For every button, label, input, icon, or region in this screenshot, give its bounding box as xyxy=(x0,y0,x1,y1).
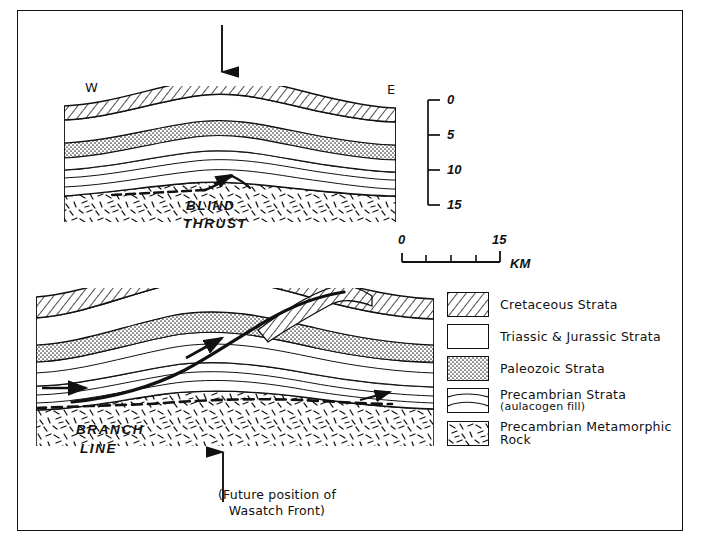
legend-swatch-precambrian-strata xyxy=(447,388,489,413)
legend-swatch-precambrian-metamorphic xyxy=(447,421,489,446)
legend-label-precambrian-metamorphic: Precambrian Metamorphic Rock xyxy=(500,420,701,446)
east-label: E xyxy=(387,82,395,97)
depth-tick-0: 0 xyxy=(447,92,454,107)
legend-label-paleozoic: Paleozoic Strata xyxy=(500,362,605,375)
scale-end-label: 15 xyxy=(492,232,506,247)
legend-label-triassic-jurassic: Triassic & Jurassic Strata xyxy=(500,330,661,343)
legend-swatch-paleozoic xyxy=(447,356,489,381)
depth-tick-5: 5 xyxy=(447,127,454,142)
caption-line-1: (Future position of xyxy=(172,487,382,503)
scale-unit-label: KM xyxy=(510,256,530,271)
branch-line-label-line2: LINE xyxy=(80,441,117,456)
legend-item-paleozoic: Paleozoic Strata xyxy=(447,356,701,381)
legend-item-precambrian-strata: Precambrian Strata (aulacogen fill) xyxy=(447,388,701,413)
wasatch-front-caption: (Future position of Wasatch Front) xyxy=(172,487,382,518)
cross-section-drawing xyxy=(0,0,701,547)
legend-sublabel-aulacogen-fill: (aulacogen fill) xyxy=(500,401,626,413)
caption-line-2: Wasatch Front) xyxy=(172,503,382,519)
geologic-cross-section-figure: W E BLIND THRUST BRANCH LINE 0 5 10 15 0… xyxy=(0,0,701,547)
legend-item-precambrian-metamorphic: Precambrian Metamorphic Rock xyxy=(447,420,701,446)
distance-scale-bar xyxy=(402,251,500,262)
depth-tick-10: 10 xyxy=(447,162,461,177)
legend-swatch-triassic-jurassic xyxy=(447,324,489,349)
legend-swatch-cretaceous xyxy=(447,292,489,317)
legend-label-cretaceous: Cretaceous Strata xyxy=(500,298,618,311)
depth-scale xyxy=(428,100,440,205)
lower-cross-section xyxy=(36,257,434,446)
blind-thrust-label-line1: BLIND xyxy=(186,198,235,213)
legend-item-cretaceous: Cretaceous Strata xyxy=(447,292,701,317)
scale-start-label: 0 xyxy=(398,232,405,247)
legend-label-precambrian-strata-group: Precambrian Strata (aulacogen fill) xyxy=(500,388,626,413)
legend: Cretaceous Strata Triassic & Jurassic St… xyxy=(447,292,701,453)
branch-line-label-line1: BRANCH xyxy=(76,422,144,437)
west-label: W xyxy=(85,80,98,95)
depth-tick-15: 15 xyxy=(447,197,461,212)
legend-item-triassic-jurassic: Triassic & Jurassic Strata xyxy=(447,324,701,349)
blind-thrust-label-line2: THRUST xyxy=(183,216,247,231)
